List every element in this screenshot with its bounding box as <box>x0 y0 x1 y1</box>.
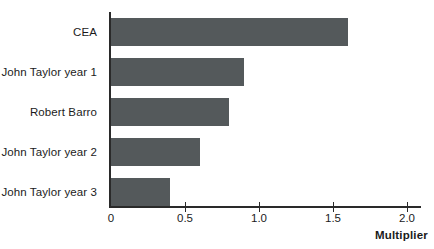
tick-mark <box>333 202 334 212</box>
tick-label: 0 <box>91 212 131 224</box>
tick-label: 1.0 <box>239 212 279 224</box>
tick-mark <box>185 202 186 212</box>
tick-label: 2.0 <box>387 212 427 224</box>
bar-chart: CEAJohn Taylor year 1Robert BarroJohn Ta… <box>0 0 434 249</box>
tick-mark <box>407 202 408 212</box>
x-axis-ticks: 00.51.01.52.0 <box>0 0 434 249</box>
tick-mark <box>259 202 260 212</box>
tick-label: 1.5 <box>313 212 353 224</box>
x-axis-title: Multiplier <box>375 229 428 241</box>
tick-label: 0.5 <box>165 212 205 224</box>
